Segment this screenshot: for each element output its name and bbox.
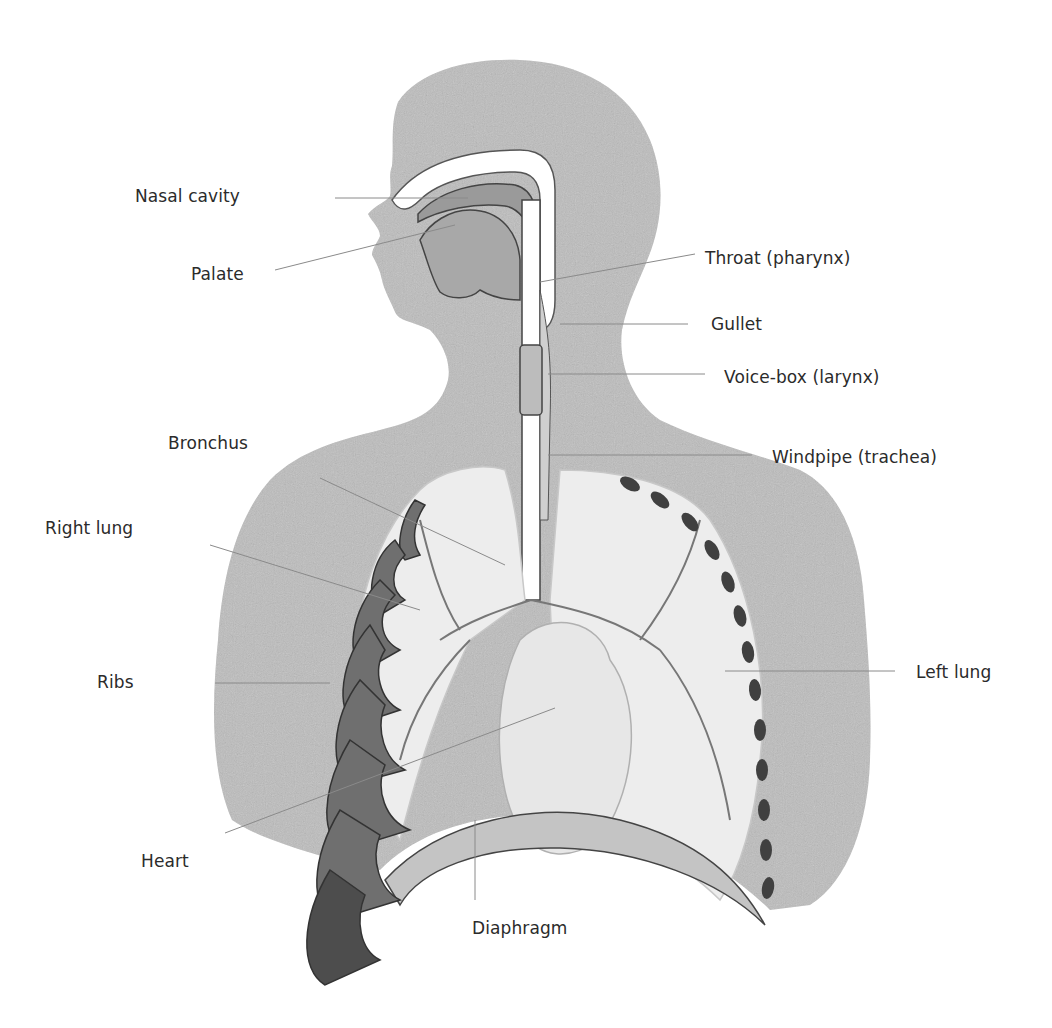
label-heart: Heart <box>141 853 189 870</box>
label-bronchus: Bronchus <box>168 435 248 452</box>
label-voice-box: Voice-box (larynx) <box>724 369 880 386</box>
label-right-lung: Right lung <box>45 520 133 537</box>
label-gullet: Gullet <box>711 316 762 333</box>
respiratory-system-illustration <box>0 0 1052 1028</box>
label-ribs: Ribs <box>97 674 134 691</box>
label-throat: Throat (pharynx) <box>705 250 850 267</box>
label-left-lung: Left lung <box>916 664 991 681</box>
label-diaphragm: Diaphragm <box>472 920 567 937</box>
label-palate: Palate <box>191 266 244 283</box>
label-nasal-cavity: Nasal cavity <box>135 188 240 205</box>
label-windpipe: Windpipe (trachea) <box>772 449 937 466</box>
